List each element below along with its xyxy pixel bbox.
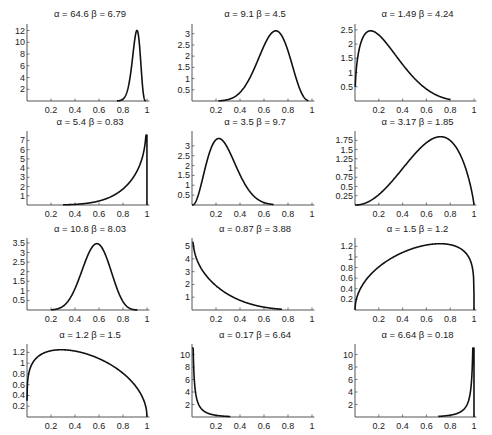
subplot-10: α = 1.2 β = 1.50.20.40.60.810.20.40.60.8…	[12, 329, 149, 431]
x-tick-label: 1	[144, 314, 149, 324]
x-tick-label: 0.2	[45, 421, 58, 431]
subplot-title: α = 64.6 β = 6.79	[54, 8, 126, 19]
y-tick-label: 1	[20, 286, 25, 296]
x-tick-label: 0.6	[420, 421, 433, 431]
y-tick-label: 1.5	[177, 170, 190, 180]
y-tick-label: 4	[185, 387, 190, 397]
y-tick-label: 3	[20, 248, 25, 258]
y-tick-label: 1	[348, 68, 353, 78]
x-tick-label: 0.8	[282, 105, 295, 115]
x-tick-label: 0.2	[373, 314, 386, 324]
y-tick-label: 8	[185, 362, 190, 372]
beta-distribution-grid: α = 64.6 β = 6.790.20.40.60.8124681012α …	[0, 0, 492, 435]
subplot-2: α = 9.1 β = 4.50.20.40.60.810.511.522.53	[177, 8, 314, 115]
x-tick-label: 1	[144, 105, 149, 115]
y-tick-label: 2	[20, 182, 25, 192]
y-tick-label: 3	[185, 141, 190, 151]
x-tick-label: 0.6	[258, 105, 271, 115]
x-tick-label: 0.4	[69, 209, 82, 219]
y-tick-label: 4	[185, 254, 190, 264]
pdf-curve	[355, 244, 474, 310]
y-tick-label: 0.4	[340, 284, 353, 294]
y-tick-label: 1.5	[340, 53, 353, 63]
y-tick-label: 10	[180, 350, 190, 360]
x-tick-label: 0.8	[117, 209, 130, 219]
y-tick-label: 6	[20, 61, 25, 71]
y-tick-label: 2	[348, 400, 353, 410]
y-tick-label: 1.5	[177, 62, 190, 72]
x-tick-label: 0.4	[396, 314, 409, 324]
x-tick-label: 0.2	[373, 421, 386, 431]
y-tick-label: 0.8	[340, 263, 353, 273]
subplot-7: α = 10.8 β = 8.030.20.40.60.810.511.522.…	[12, 223, 149, 324]
subplot-1: α = 64.6 β = 6.790.20.40.60.8124681012	[15, 8, 150, 115]
subplot-5: α = 3.5 β = 9.70.20.40.60.810.511.522.53	[177, 116, 314, 219]
subplot-title: α = 6.64 β = 0.18	[381, 329, 453, 340]
y-tick-label: 6	[348, 375, 353, 385]
subplot-4: α = 5.4 β = 0.830.20.40.60.811234567	[20, 116, 150, 219]
x-tick-label: 0.2	[210, 105, 223, 115]
x-tick-label: 0.4	[234, 105, 247, 115]
y-tick-label: 2.5	[177, 151, 190, 161]
x-tick-label: 0.8	[282, 209, 295, 219]
y-tick-label: 2.5	[12, 257, 25, 267]
x-tick-label: 0.2	[373, 209, 386, 219]
x-tick-label: 0.2	[45, 105, 58, 115]
subplot-11: α = 0.17 β = 6.640.20.40.60.81246810	[180, 329, 315, 431]
y-tick-label: 0.5	[12, 295, 25, 305]
x-tick-label: 0.4	[234, 421, 247, 431]
x-tick-label: 0.8	[444, 421, 457, 431]
x-tick-label: 0.2	[45, 314, 58, 324]
pdf-curve	[27, 350, 147, 417]
pdf-curve	[117, 30, 146, 101]
x-tick-label: 0.8	[117, 314, 130, 324]
y-tick-label: 0.4	[12, 390, 25, 400]
pdf-curve	[51, 244, 137, 310]
y-tick-label: 1.5	[12, 276, 25, 286]
y-tick-label: 1	[185, 292, 190, 302]
y-tick-label: 3	[185, 267, 190, 277]
y-tick-label: 5	[20, 154, 25, 164]
y-tick-label: 2	[185, 161, 190, 171]
pdf-curve	[355, 137, 474, 205]
x-tick-label: 1	[309, 105, 314, 115]
y-tick-label: 1.25	[335, 154, 353, 164]
y-tick-label: 2	[185, 400, 190, 410]
subplot-8: α = 0.87 β = 3.880.20.40.60.8112345	[185, 223, 315, 324]
x-tick-label: 0.6	[258, 314, 271, 324]
x-tick-label: 1	[471, 209, 476, 219]
x-tick-label: 0.6	[93, 209, 106, 219]
y-tick-label: 0.6	[340, 273, 353, 283]
y-tick-label: 1.2	[340, 241, 353, 251]
y-tick-label: 4	[348, 387, 353, 397]
y-tick-label: 2	[348, 39, 353, 49]
pdf-curve	[192, 348, 230, 416]
x-tick-label: 1	[309, 209, 314, 219]
subplot-title: α = 5.4 β = 0.83	[57, 116, 124, 127]
y-tick-label: 1	[20, 191, 25, 201]
y-tick-label: 6	[20, 145, 25, 155]
y-tick-label: 12	[15, 26, 25, 36]
y-tick-label: 10	[15, 37, 25, 47]
y-tick-label: 2	[185, 51, 190, 61]
x-tick-label: 1	[471, 421, 476, 431]
x-tick-label: 1	[309, 314, 314, 324]
x-tick-label: 0.4	[396, 421, 409, 431]
y-tick-label: 2	[185, 279, 190, 289]
x-tick-label: 0.8	[117, 105, 130, 115]
x-tick-label: 0.8	[282, 421, 295, 431]
y-tick-label: 0.5	[340, 182, 353, 192]
x-tick-label: 0.2	[210, 421, 223, 431]
y-tick-label: 0.5	[177, 85, 190, 95]
x-tick-label: 1	[471, 105, 476, 115]
pdf-curve	[438, 348, 474, 417]
x-tick-label: 0.6	[420, 209, 433, 219]
pdf-curve	[63, 135, 147, 205]
y-tick-label: 4	[20, 163, 25, 173]
y-tick-label: 8	[20, 49, 25, 59]
y-tick-label: 0.2	[12, 401, 25, 411]
x-tick-label: 0.8	[444, 105, 457, 115]
subplot-title: α = 3.17 β = 1.85	[381, 116, 453, 127]
y-tick-label: 1.2	[12, 347, 25, 357]
x-tick-label: 0.8	[444, 314, 457, 324]
